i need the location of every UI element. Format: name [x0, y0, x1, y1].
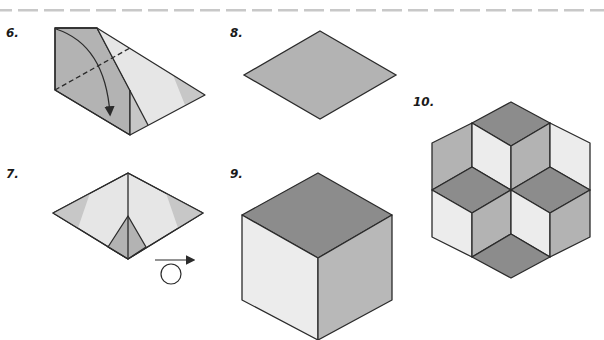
step-8-rhombus: [244, 31, 396, 119]
step-10-star-hexagon: [432, 102, 590, 278]
step-7-figure: [53, 173, 203, 259]
turn-over-icon: [155, 260, 193, 284]
step-9-cube: [242, 173, 392, 340]
step-6-figure: [55, 28, 205, 135]
diagram-canvas: [0, 0, 604, 340]
